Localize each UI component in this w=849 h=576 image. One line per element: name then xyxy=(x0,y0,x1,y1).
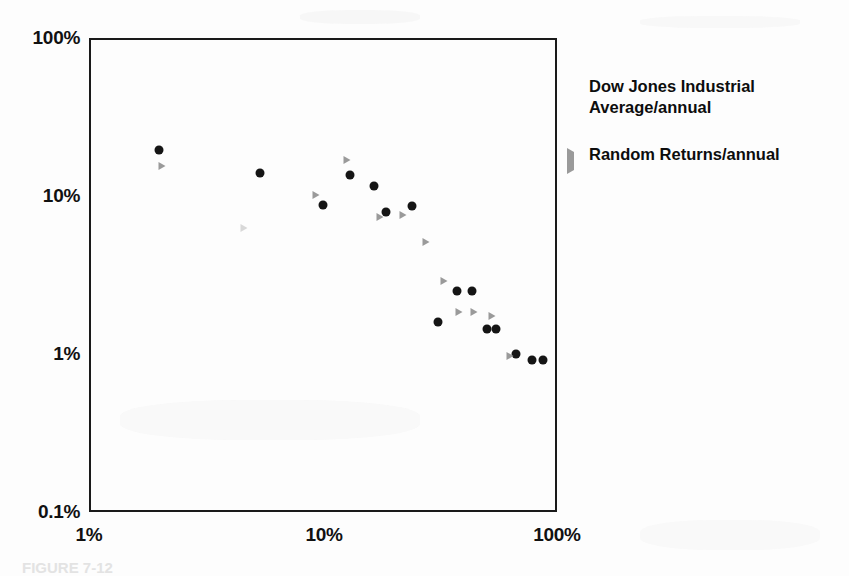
data-point-dow-jones xyxy=(155,146,164,155)
legend-entry-random-returns[interactable]: Random Returns/annual xyxy=(563,144,843,165)
y-axis-tick-0-1: 0.1% xyxy=(4,501,80,523)
data-point-random-returns xyxy=(344,156,351,164)
data-point-dow-jones xyxy=(527,355,536,364)
data-point-dow-jones xyxy=(407,201,416,210)
y-axis-tick-1: 1% xyxy=(4,343,80,365)
data-point-dow-jones xyxy=(453,287,462,296)
data-point-random-returns xyxy=(400,211,407,219)
data-point-dow-jones xyxy=(319,200,328,209)
x-axis-tick-100: 100% xyxy=(533,524,580,546)
data-point-random-returns xyxy=(489,312,496,320)
data-point-random-returns xyxy=(312,191,319,199)
data-point-dow-jones xyxy=(482,324,491,333)
y-axis-tick-100: 100% xyxy=(4,27,80,49)
scan-speckle xyxy=(640,16,800,28)
data-point-random-returns xyxy=(241,224,248,232)
data-point-random-returns xyxy=(158,162,165,170)
data-point-random-returns xyxy=(441,277,448,285)
legend-entry-dow-jones[interactable]: Dow Jones Industrial Average/annual xyxy=(563,76,843,118)
legend: Dow Jones Industrial Average/annual Rand… xyxy=(563,76,843,191)
data-point-dow-jones xyxy=(468,287,477,296)
triangle-right-icon xyxy=(567,151,574,172)
data-point-random-returns xyxy=(470,308,477,316)
figure-container: 100% 10% 1% 0.1% 1% 10% 100% Dow Jones I… xyxy=(0,0,849,576)
scan-speckle xyxy=(640,520,820,550)
y-axis-tick-10: 10% xyxy=(4,185,80,207)
figure-caption: FIGURE 7-12 xyxy=(22,559,113,576)
data-point-random-returns xyxy=(455,308,462,316)
legend-label: Random Returns/annual xyxy=(589,145,780,163)
data-point-dow-jones xyxy=(538,355,547,364)
data-point-dow-jones xyxy=(256,168,265,177)
x-axis-tick-10: 10% xyxy=(305,524,342,546)
plot-area xyxy=(89,38,557,512)
data-point-dow-jones xyxy=(492,324,501,333)
data-point-dow-jones xyxy=(345,171,354,180)
data-point-dow-jones xyxy=(433,317,442,326)
data-point-random-returns xyxy=(507,352,514,360)
scan-speckle xyxy=(300,10,420,24)
data-point-random-returns xyxy=(377,213,384,221)
data-point-random-returns xyxy=(422,238,429,246)
legend-label: Dow Jones Industrial Average/annual xyxy=(589,77,755,116)
x-axis-tick-1: 1% xyxy=(76,524,103,546)
data-point-dow-jones xyxy=(369,181,378,190)
